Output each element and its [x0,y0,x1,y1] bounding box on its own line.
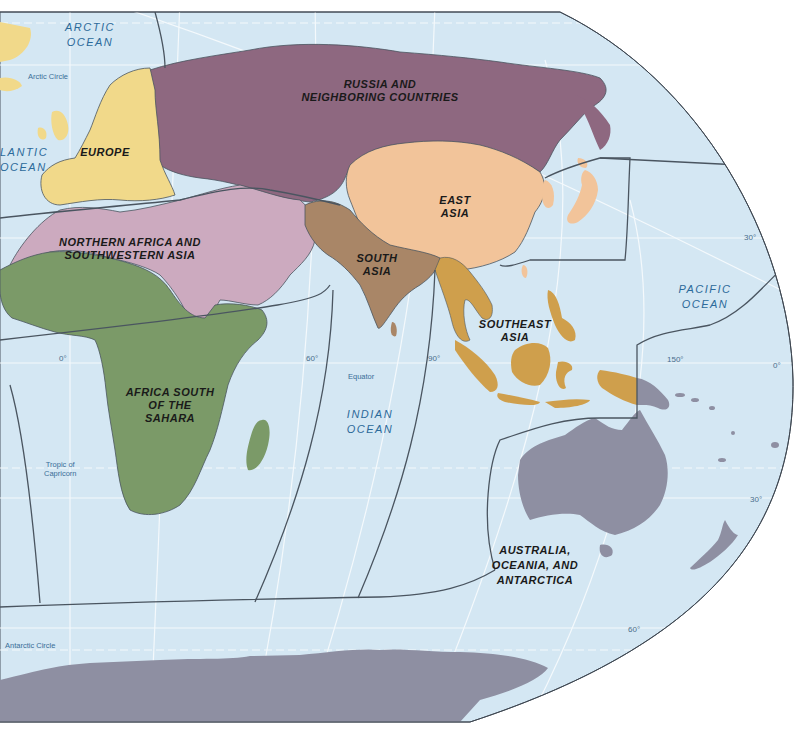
label-arctic-circle: Arctic Circle [28,72,68,81]
label-north-africa-sw-asia: NORTHERN AFRICA AND SOUTHWESTERN ASIA [50,236,210,262]
label-africa-south-of-sahara: AFRICA SOUTH OF THE SAHARA [120,386,220,425]
label-line: OCEAN [670,297,740,312]
label-lat-60-south: 60° [628,625,640,634]
label-line: OCEANIA, AND [490,558,580,573]
label-lat-30-south: 30° [750,495,762,504]
label-australia-oceania-antarctica: AUSTRALIA, OCEANIA, AND ANTARCTICA [490,543,580,588]
label-south-asia: SOUTH ASIA [352,252,402,278]
label-russia: RUSSIA AND NEIGHBORING COUNTRIES [300,78,460,104]
label-atlantic-ocean: LANTIC OCEAN [0,145,55,175]
label-line: Tropic of [44,460,77,469]
label-line: AFRICA SOUTH [120,386,220,399]
label-tropic-of-capricorn: Tropic of Capricorn [44,460,77,478]
label-indian-ocean: INDIAN OCEAN [335,407,405,437]
label-line: LANTIC [0,145,55,160]
label-line: RUSSIA AND [300,78,460,91]
label-lat-30-north: 30° [744,233,756,242]
label-line: PACIFIC [670,282,740,297]
label-line: OCEAN [0,160,55,175]
label-line: ANTARCTICA [490,573,580,588]
label-lon-150: 150° [667,355,684,364]
label-line: NORTHERN AFRICA AND [50,236,210,249]
label-antarctic-circle: Antarctic Circle [5,641,55,650]
label-line: NEIGHBORING COUNTRIES [300,91,460,104]
label-line: Capricorn [44,469,77,478]
label-line: ASIA [352,265,402,278]
world-regions-map [0,0,801,738]
label-east-asia: EAST ASIA [430,194,480,220]
label-line: EAST [430,194,480,207]
label-lon-60: 60° [306,354,318,363]
label-arctic-ocean: ARCTIC OCEAN [55,20,125,50]
label-lon-0: 0° [59,354,67,363]
label-line: SOUTHEAST [475,318,555,331]
label-lon-90: 90° [428,354,440,363]
label-line: ASIA [475,331,555,344]
label-equator: Equator [348,372,374,381]
label-lat-0: 0° [773,361,781,370]
label-line: ARCTIC [55,20,125,35]
label-line: SOUTHWESTERN ASIA [50,249,210,262]
label-line: EUROPE [75,146,135,159]
label-line: SAHARA [120,412,220,425]
label-line: SOUTH [352,252,402,265]
label-line: OF THE [120,399,220,412]
label-line: AUSTRALIA, [490,543,580,558]
label-pacific-ocean: PACIFIC OCEAN [670,282,740,312]
label-europe: EUROPE [75,146,135,159]
label-line: ASIA [430,207,480,220]
label-line: OCEAN [55,35,125,50]
label-line: INDIAN [335,407,405,422]
label-southeast-asia: SOUTHEAST ASIA [475,318,555,344]
label-line: OCEAN [335,422,405,437]
